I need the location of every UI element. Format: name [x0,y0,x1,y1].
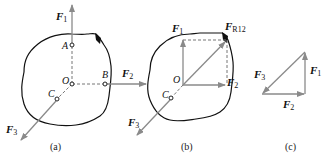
panel-c: F1 F2 F3 (c) [253,52,321,153]
force-f2-label: F2 [226,76,238,90]
black-mark [95,33,101,44]
force-f2-label: F2 [282,98,294,112]
force-f3-arrow [137,100,170,135]
force-f1-label: F1 [55,10,67,24]
force-f3-label: F3 [253,68,265,82]
force-diagram: A O B C F1 F2 F3 (a) O C F1 F2 F3 FR12 (… [0,0,327,166]
point-a-node [70,43,74,47]
point-o-label: O [173,74,180,85]
point-o-label: O [62,75,69,86]
force-f3-label: F3 [127,116,139,130]
force-f3-arrow [263,52,305,93]
point-b-label: B [102,69,108,80]
point-c-node [55,97,59,101]
point-c-label: C [48,88,55,99]
dashed-line-oc [172,85,183,97]
panel-a: A O B C F1 F2 F3 (a) [5,5,146,153]
caption-a: (a) [50,141,61,153]
point-o-node [70,82,74,86]
point-c-node [169,96,173,100]
point-a-label: A [61,40,69,51]
panel-b: O C F1 F2 F3 FR12 (b) [127,20,246,153]
force-f3-label: F3 [5,123,17,137]
force-fr12-arrow [183,42,225,85]
force-f1-label: F1 [171,22,183,36]
dashed-line-oc [58,84,72,98]
point-b-node [103,82,107,86]
force-f3-arrow [21,101,56,140]
caption-c: (c) [285,141,296,153]
caption-b: (b) [181,141,193,153]
force-f2-label: F2 [121,67,133,81]
force-f1-label: F1 [309,64,321,78]
point-c-label: C [162,89,169,100]
force-fr12-label: FR12 [224,20,246,34]
